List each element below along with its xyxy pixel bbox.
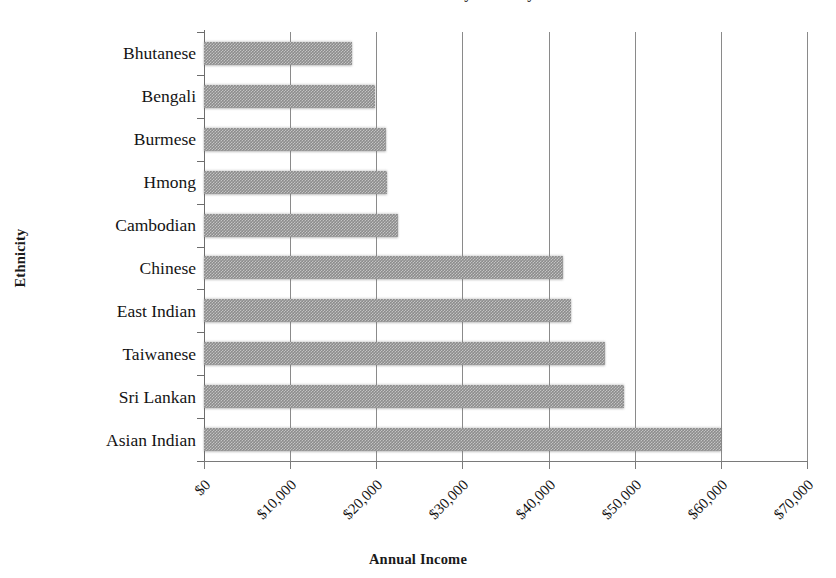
x-tick-label: $30,000 <box>390 476 473 559</box>
x-tick-mark <box>549 461 550 469</box>
y-tick-label: Sri Lankan <box>6 387 196 407</box>
bar <box>204 299 571 322</box>
y-tick-label: Chinese <box>6 258 196 278</box>
y-tick-label: Hmong <box>6 172 196 192</box>
gridline <box>807 32 808 461</box>
x-axis-spine <box>204 461 808 462</box>
x-tick-label: $40,000 <box>476 476 559 559</box>
x-tick-label: $50,000 <box>562 476 645 559</box>
bar <box>204 42 352 65</box>
bar <box>204 171 387 194</box>
y-tick-label: Asian Indian <box>6 430 196 450</box>
x-tick-label: $70,000 <box>734 476 817 559</box>
bar <box>204 385 624 408</box>
y-tick-label: East Indian <box>6 301 196 321</box>
bar <box>204 428 721 451</box>
bar <box>204 342 605 365</box>
y-tick-label: Bhutanese <box>6 43 196 63</box>
y-tick-mark <box>197 375 204 376</box>
x-tick-mark <box>204 461 205 469</box>
x-tick-label: $10,000 <box>217 476 300 559</box>
y-tick-mark <box>197 418 204 419</box>
y-tick-label: Burmese <box>6 129 196 149</box>
x-tick-label: $20,000 <box>304 476 387 559</box>
x-tick-mark <box>462 461 463 469</box>
x-tick-mark <box>807 461 808 469</box>
y-tick-mark <box>197 32 204 33</box>
y-tick-mark <box>197 118 204 119</box>
plot-area <box>204 32 807 461</box>
bar <box>204 85 375 108</box>
x-tick-label: $60,000 <box>648 476 731 559</box>
y-tick-label: Cambodian <box>6 215 196 235</box>
x-tick-mark <box>721 461 722 469</box>
x-tick-mark <box>376 461 377 469</box>
bar <box>204 214 398 237</box>
y-tick-mark <box>197 461 204 462</box>
y-tick-mark <box>197 289 204 290</box>
y-tick-mark <box>197 204 204 205</box>
gridline <box>721 32 722 461</box>
y-tick-label-group: BhutaneseBengaliBurmeseHmongCambodianChi… <box>0 0 196 578</box>
y-tick-mark <box>197 75 204 76</box>
gridline <box>635 32 636 461</box>
y-tick-mark <box>197 247 204 248</box>
y-tick-mark <box>197 161 204 162</box>
y-tick-label: Taiwanese <box>6 344 196 364</box>
y-tick-mark <box>197 332 204 333</box>
chart-figure: Median Annual Income by Ethnicity Ethnic… <box>0 0 836 578</box>
bar <box>204 128 386 151</box>
x-tick-mark <box>635 461 636 469</box>
y-tick-label: Bengali <box>6 86 196 106</box>
x-tick-mark <box>290 461 291 469</box>
bar <box>204 256 563 279</box>
